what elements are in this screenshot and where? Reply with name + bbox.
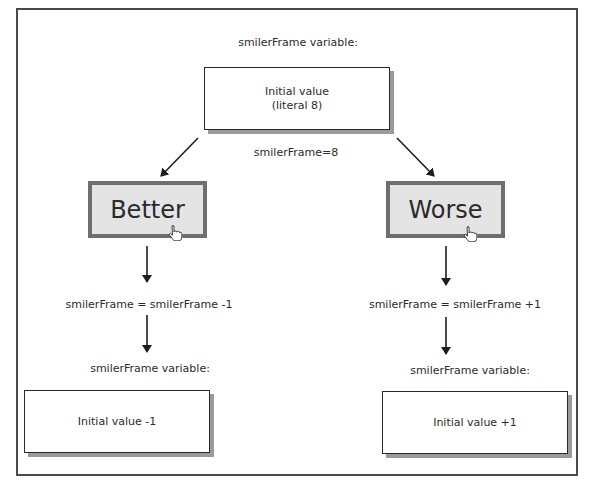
worse-operation: smilerFrame = smilerFrame +1 (369, 298, 541, 311)
initial-value-line1: Initial value (265, 85, 329, 99)
better-result-box: Initial value -1 (24, 390, 210, 453)
top-variable-heading: smilerFrame variable: (238, 36, 358, 49)
better-variable-heading: smilerFrame variable: (90, 362, 210, 375)
better-button-label: Better (110, 196, 185, 224)
hand-pointer-icon (168, 225, 182, 241)
worse-result-box: Initial value +1 (382, 391, 568, 454)
initial-assignment: smilerFrame=8 (254, 146, 338, 159)
arrow-to-worse (397, 138, 434, 176)
hand-pointer-icon (463, 226, 477, 242)
initial-value-box: Initial value (literal 8) (204, 67, 390, 130)
better-result-text: Initial value -1 (78, 415, 156, 429)
worse-button[interactable]: Worse (386, 181, 505, 238)
arrow-to-better (161, 138, 198, 176)
worse-variable-heading: smilerFrame variable: (410, 364, 530, 377)
worse-button-label: Worse (408, 196, 482, 224)
better-button[interactable]: Better (88, 181, 207, 238)
better-operation: smilerFrame = smilerFrame -1 (66, 298, 233, 311)
initial-value-line2: (literal 8) (272, 99, 323, 113)
worse-result-text: Initial value +1 (433, 416, 517, 430)
